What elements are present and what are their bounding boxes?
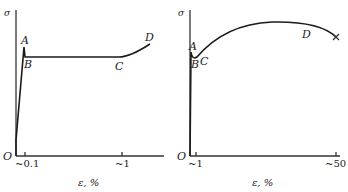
right-point-d: D: [301, 28, 311, 41]
stress-strain-figure: σ O A B C D ~0.1 ~1 ε, % σ O A B C D ~1 …: [0, 0, 348, 192]
left-point-a: A: [20, 34, 29, 47]
left-tick-label-01: ~0.1: [15, 158, 39, 169]
left-chart: σ O A B C D ~0.1 ~1 ε, %: [3, 8, 164, 188]
right-origin-label: O: [177, 150, 186, 163]
left-point-b: B: [23, 58, 32, 71]
right-y-label: σ: [178, 8, 185, 18]
left-point-d: D: [144, 31, 154, 44]
right-point-c: C: [200, 55, 209, 68]
right-curve: [190, 22, 336, 156]
left-tick-label-1: ~1: [115, 158, 130, 169]
right-chart: σ O A B C D ~1 ~50 ε, %: [177, 8, 346, 188]
left-point-c: C: [115, 60, 124, 73]
left-origin-label: O: [3, 150, 12, 163]
right-tick-label-50: ~50: [325, 158, 346, 169]
left-x-label: ε, %: [78, 177, 99, 188]
right-point-b: B: [190, 58, 199, 71]
left-y-label: σ: [4, 8, 11, 18]
right-x-label: ε, %: [252, 177, 273, 188]
right-tick-label-1: ~1: [188, 158, 203, 169]
right-point-a: A: [188, 40, 197, 53]
left-curve: [16, 44, 150, 156]
